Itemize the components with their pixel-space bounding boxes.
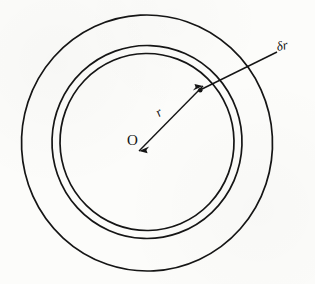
figure-container: O r δr xyxy=(0,0,315,284)
shell-thickness-label: δr xyxy=(275,38,289,53)
center-point-label: O xyxy=(127,133,138,148)
delta-r-leader-dot xyxy=(198,88,203,93)
concentric-circles-diagram xyxy=(0,0,315,284)
radius-arrow-shaft xyxy=(139,86,203,151)
